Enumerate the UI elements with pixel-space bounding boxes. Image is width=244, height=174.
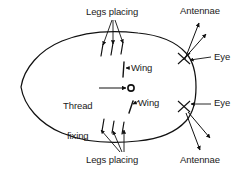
insect-diagram: Legs placing Legs placing Antennae Anten… [0, 0, 244, 174]
label-thread-fixing-line1: Thread [63, 101, 93, 111]
antennae-top [183, 23, 206, 60]
eye-top-leader [190, 57, 211, 60]
label-antennae-bottom: Antennae [180, 155, 220, 166]
label-antennae-top: Antennae [180, 6, 220, 17]
label-eye-bottom: Eye [214, 98, 230, 109]
label-thread-fixing-line2: fixing [63, 131, 93, 141]
label-eye-top: Eye [214, 52, 230, 63]
label-legs-placing-bottom: Legs placing [86, 155, 138, 166]
label-thread-fixing: Thread fixing [63, 81, 93, 161]
diagram-canvas [0, 0, 244, 174]
label-wing-bottom: Wing [138, 98, 159, 109]
wing-mark-top [123, 62, 124, 77]
body-outline [21, 32, 196, 143]
label-legs-placing-top: Legs placing [86, 7, 138, 18]
antennae-bottom [186, 112, 210, 150]
thread-fixing-marker [128, 85, 134, 91]
label-wing-top: Wing [131, 63, 152, 74]
